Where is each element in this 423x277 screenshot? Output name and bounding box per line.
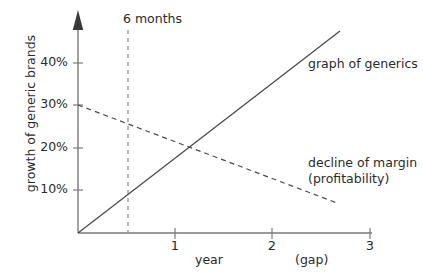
y-tick-label-10: 10%	[28, 182, 68, 196]
annotation-graph-of-generics: graph of generics	[308, 57, 418, 71]
x-axis-title: year	[195, 253, 223, 267]
annotation-decline-of-margin-line2: (profitability)	[308, 172, 389, 186]
y-tick-label-40: 40%	[28, 55, 68, 69]
six-months-label: 6 months	[123, 12, 182, 26]
y-tick-label-30: 30%	[28, 97, 68, 111]
y-tick-label-20: 20%	[28, 140, 68, 154]
chart-container: growth of generic brands 40% 30% 20% 10%…	[0, 0, 423, 277]
x-tick-label-2: 2	[258, 239, 286, 254]
series-decline-of-margin-line	[78, 105, 337, 203]
x-tick-label-1: 1	[161, 239, 189, 254]
x-tick-label-3: 3	[356, 239, 384, 254]
series-graph-of-generics-line	[78, 31, 340, 233]
y-axis-arrowhead	[73, 10, 83, 30]
annotation-decline-of-margin-line1: decline of margin	[308, 156, 417, 170]
x-axis-gap-label: (gap)	[295, 253, 328, 267]
